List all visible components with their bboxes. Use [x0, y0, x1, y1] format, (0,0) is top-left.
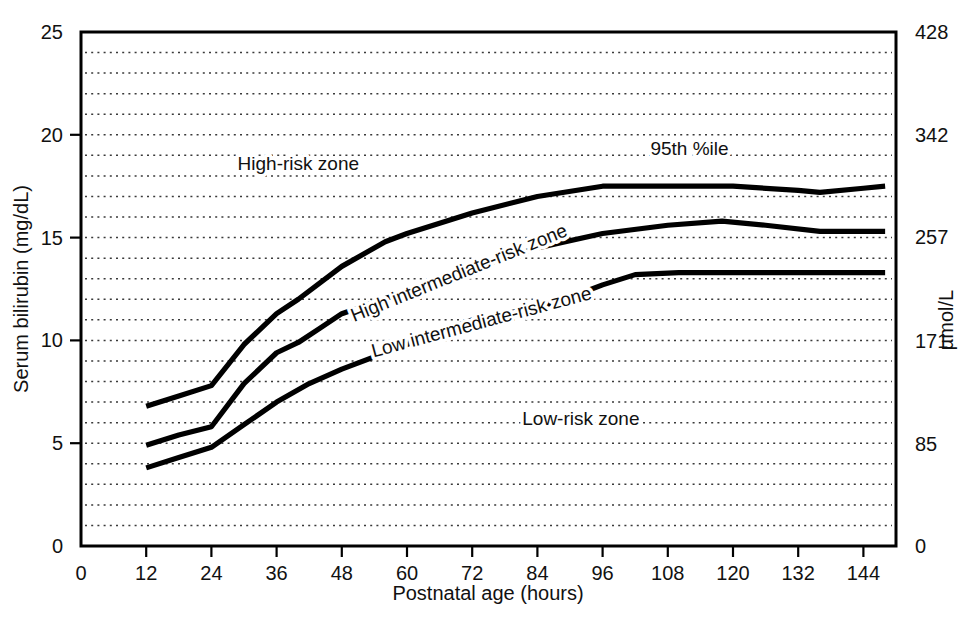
x-tick-label: 48: [331, 562, 353, 584]
zone-annotation-high-risk: High-risk zoneHigh-risk zone: [238, 153, 359, 174]
serum-bilirubin-nomogram-chart: 0510152025 085171257342428 0122436486072…: [0, 0, 977, 619]
bhutani-nomogram-figure: 0510152025 085171257342428 0122436486072…: [0, 0, 977, 619]
x-axis-ticks: 01224364860728496108120132144: [75, 546, 880, 584]
x-tick-label: 60: [396, 562, 418, 584]
x-tick-label: 132: [782, 562, 815, 584]
zone-annotation-low-risk: Low-risk zoneLow-risk zone: [522, 408, 639, 429]
y-tick-label: 15: [41, 227, 63, 249]
x-tick-label: 120: [716, 562, 749, 584]
zone-annotation-text: 95th %ile: [650, 138, 728, 159]
zone-annotation-percentile: 95th %ile95th %ile: [650, 138, 728, 159]
x-axis-title: Postnatal age (hours): [392, 582, 583, 604]
secondary-y-tick-label: 257: [915, 226, 948, 248]
secondary-y-tick-label: 342: [915, 124, 948, 146]
y-axis-title: Serum bilirubin (mg/dL): [10, 185, 32, 393]
x-tick-label: 24: [200, 562, 222, 584]
zone-annotation-text: High-risk zone: [238, 153, 359, 174]
y-tick-label: 10: [41, 329, 63, 351]
secondary-y-tick-label: 0: [915, 535, 926, 557]
y-tick-label: 20: [41, 124, 63, 146]
x-tick-label: 36: [265, 562, 287, 584]
plot-area-background: [81, 32, 896, 546]
y-tick-label: 0: [52, 535, 63, 557]
x-tick-label: 96: [591, 562, 613, 584]
x-tick-label: 84: [526, 562, 548, 584]
y-tick-label: 25: [41, 21, 63, 43]
y-axis-ticks: 0510152025: [41, 21, 81, 557]
secondary-y-axis-ticks: 085171257342428: [915, 21, 948, 557]
secondary-y-tick-label: 428: [915, 21, 948, 43]
zone-annotation-text: Low-risk zone: [522, 408, 639, 429]
x-tick-label: 72: [461, 562, 483, 584]
x-tick-label: 108: [651, 562, 684, 584]
x-tick-label: 144: [847, 562, 880, 584]
secondary-y-tick-label: 85: [915, 433, 937, 455]
x-tick-label: 12: [135, 562, 157, 584]
x-tick-label: 0: [75, 562, 86, 584]
secondary-y-axis-title: µmol/L: [935, 290, 957, 350]
y-tick-label: 5: [52, 432, 63, 454]
